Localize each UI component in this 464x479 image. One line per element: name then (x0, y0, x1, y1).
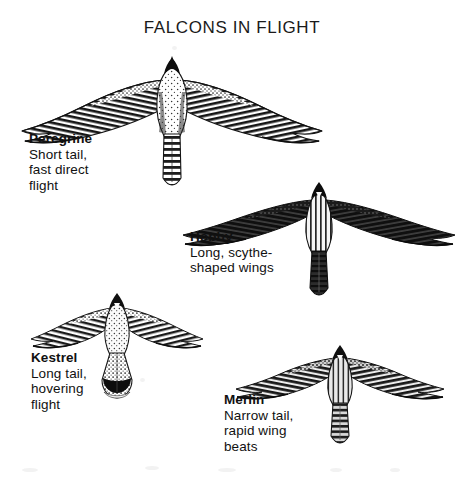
kestrel-body (105, 293, 129, 355)
caption-merlin: Merlin Narrow tail, rapid wing beats (224, 392, 293, 454)
species-desc-hobby-line-1: Long, scythe- (190, 245, 274, 261)
scan-artifact (22, 468, 38, 472)
peregrine-right-wing (178, 80, 322, 143)
merlin-body (328, 345, 352, 405)
caption-kestrel: Kestrel Long tail, hovering flight (31, 350, 87, 412)
species-desc-merlin-line-1: Narrow tail, (224, 408, 293, 424)
species-name-peregrine: Peregrine (29, 131, 92, 147)
page-title: FALCONS IN FLIGHT (0, 18, 464, 38)
species-desc-hobby-line-2: shaped wings (190, 260, 274, 276)
peregrine-body (157, 56, 187, 136)
scan-artifact (390, 468, 400, 472)
species-desc-peregrine-line-3: flight (29, 178, 92, 194)
peregrine-tail (163, 134, 181, 185)
caption-peregrine: Peregrine Short tail, fast direct flight (29, 131, 92, 193)
scan-artifact (172, 46, 177, 50)
hobby-tail (310, 251, 328, 295)
kestrel-left-wing (31, 308, 114, 348)
species-name-merlin: Merlin (224, 392, 293, 408)
merlin-tail (331, 403, 349, 443)
scan-artifact (218, 468, 236, 472)
merlin-right-wing (343, 358, 444, 399)
kestrel-right-wing (120, 308, 203, 348)
species-desc-kestrel-line-3: flight (31, 397, 87, 413)
species-desc-merlin-line-2: rapid wing (224, 423, 293, 439)
species-desc-kestrel-line-1: Long tail, (31, 366, 87, 382)
species-desc-merlin-line-3: beats (224, 439, 293, 455)
species-name-kestrel: Kestrel (31, 350, 87, 366)
caption-hobby: Hobby Long, scythe- shaped wings (190, 229, 274, 276)
species-desc-kestrel-line-2: hovering (31, 381, 87, 397)
hobby-body (306, 182, 332, 253)
falcons-in-flight-plate: FALCONS IN FLIGHT (0, 0, 464, 479)
species-desc-peregrine-line-2: fast direct (29, 162, 92, 178)
kestrel-tail (102, 353, 132, 398)
species-name-hobby: Hobby (190, 229, 274, 245)
species-desc-peregrine-line-1: Short tail, (29, 147, 92, 163)
hobby-right-wing (324, 200, 455, 245)
scan-artifact (145, 466, 159, 470)
scan-artifact (330, 468, 342, 472)
